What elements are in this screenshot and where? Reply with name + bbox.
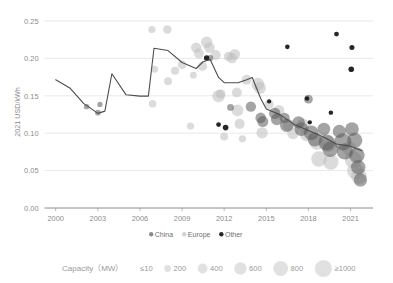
capacity-legend-label: 200	[174, 264, 187, 273]
y-tick-label: 0.10	[24, 129, 38, 138]
data-point-other	[329, 110, 333, 114]
capacity-legend-label: ≤10	[140, 264, 153, 273]
y-tick-label: 0.05	[24, 166, 38, 175]
x-tick-label: 2021	[342, 214, 358, 223]
legend-swatch-europe[interactable]	[182, 232, 186, 236]
x-tick-label: 2003	[90, 214, 106, 223]
x-tick-label: 2006	[132, 214, 148, 223]
y-axis-title: 2021 USD/kWh	[13, 87, 22, 137]
data-point-europe	[164, 77, 172, 85]
data-point-china	[280, 119, 293, 132]
data-point-other	[334, 32, 339, 37]
data-point-europe	[171, 67, 179, 75]
data-point-europe	[194, 49, 204, 59]
data-point-europe	[187, 123, 194, 130]
legend-label-other[interactable]: Other	[225, 231, 243, 238]
data-point-europe	[216, 89, 226, 99]
capacity-legend-bubble	[198, 264, 208, 274]
data-point-europe	[190, 72, 197, 79]
x-tick-label: 2009	[174, 214, 190, 223]
data-point-europe	[232, 88, 242, 98]
x-tick-label: 2000	[48, 214, 64, 223]
capacity-legend-bubble	[164, 265, 171, 272]
capacity-legend-bubble	[273, 261, 288, 276]
capacity-legend-label: 800	[291, 264, 304, 273]
capacity-legend-bubble	[315, 260, 332, 277]
legend-label-china[interactable]: China	[155, 231, 173, 238]
capacity-legend-label: 600	[249, 264, 262, 273]
series-legend: ChinaEuropeOther	[149, 231, 243, 239]
y-tick-label: 0.00	[24, 204, 38, 213]
data-point-china	[257, 116, 268, 127]
data-point-other	[216, 122, 221, 127]
offshore-wind-lcoe-bubble-chart: 0.000.050.100.150.200.25 200020032006200…	[0, 0, 393, 283]
capacity-legend-label: 400	[210, 264, 223, 273]
data-point-europe	[254, 82, 266, 94]
data-point-china	[351, 160, 365, 174]
data-point-china	[354, 173, 367, 186]
data-point-other	[349, 45, 354, 50]
legend-label-europe[interactable]: Europe	[188, 231, 211, 239]
data-point-other	[223, 125, 229, 131]
data-point-europe	[178, 60, 187, 69]
data-point-other	[305, 96, 309, 100]
data-point-china	[318, 123, 331, 136]
data-point-other	[348, 66, 354, 72]
data-point-europe	[235, 119, 245, 129]
data-point-other	[285, 44, 290, 49]
chart-container: 0.000.050.100.150.200.25 200020032006200…	[0, 0, 393, 283]
x-tick-label: 2012	[216, 214, 232, 223]
legend-swatch-other[interactable]	[219, 232, 223, 236]
data-point-europe	[256, 127, 267, 138]
x-tick-label: 2015	[258, 214, 274, 223]
y-tick-label: 0.20	[24, 54, 38, 63]
data-point-europe	[229, 49, 240, 60]
data-point-europe	[239, 135, 246, 142]
data-point-europe	[148, 26, 155, 33]
data-point-other	[308, 120, 312, 124]
y-tick-label: 0.15	[24, 92, 38, 101]
data-point-europe	[149, 100, 157, 108]
legend-swatch-china[interactable]	[149, 232, 153, 236]
y-tick-label: 0.25	[24, 17, 38, 26]
data-point-china	[246, 101, 256, 111]
data-point-china	[227, 104, 234, 111]
data-point-china	[97, 102, 102, 107]
data-point-other	[267, 99, 271, 103]
capacity-legend-bubble	[234, 262, 246, 274]
data-point-europe	[220, 133, 228, 141]
capacity-legend-label: ≥1000	[335, 264, 356, 273]
capacity-legend-title: Capacity（MW）	[62, 264, 123, 273]
x-tick-label: 2018	[300, 214, 316, 223]
data-point-europe	[163, 25, 172, 33]
